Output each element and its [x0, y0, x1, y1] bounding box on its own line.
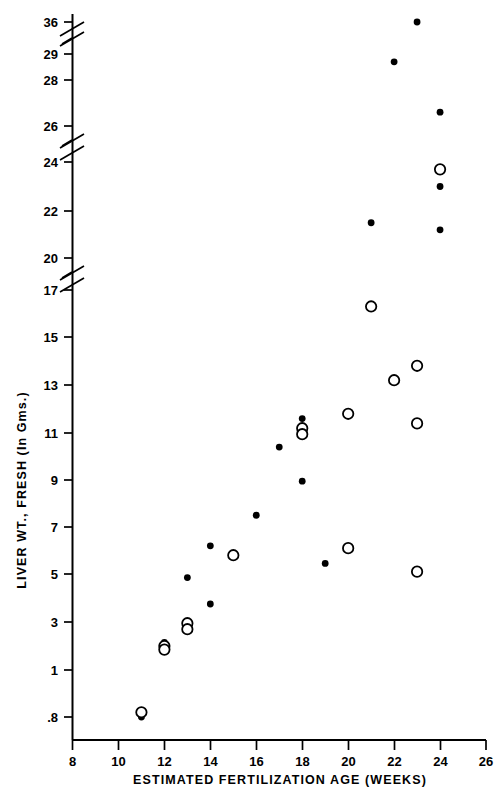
y-tick-label: 3 — [51, 615, 58, 630]
y-tick-label: 20 — [44, 251, 58, 266]
y-axis-title: LIVER WT., FRESH (In Gms.) — [15, 391, 29, 588]
data-points-layer — [136, 19, 445, 721]
data-point-open — [435, 164, 445, 174]
x-tick-label: 10 — [111, 754, 125, 769]
y-tick-label: 22 — [44, 204, 58, 219]
x-tick-label: 26 — [479, 754, 493, 769]
x-tick-label: 14 — [203, 754, 218, 769]
data-point-filled — [437, 109, 444, 116]
data-point-filled — [207, 542, 214, 549]
x-tick-label: 18 — [295, 754, 309, 769]
data-point-open — [389, 375, 399, 385]
data-point-open — [228, 550, 238, 560]
x-axis-title: ESTIMATED FERTILIZATION AGE (WEEKS) — [133, 773, 427, 787]
y-tick-label: 13 — [44, 378, 58, 393]
y-axis-ticks — [64, 22, 72, 717]
data-point-open — [159, 644, 169, 654]
x-tick-label: 8 — [69, 754, 76, 769]
data-point-open — [182, 624, 192, 634]
y-tick-label: 9 — [51, 473, 58, 488]
y-axis-tick-labels: 36 29 28 26 24 22 20 17 15 13 11 9 7 5 3… — [44, 15, 59, 725]
y-tick-label: 28 — [44, 73, 58, 88]
y-tick-label: 15 — [44, 330, 58, 345]
data-point-filled — [391, 58, 398, 65]
x-tick-label: 22 — [387, 754, 401, 769]
data-point-filled — [276, 444, 283, 451]
data-point-open — [343, 409, 353, 419]
data-point-open — [343, 543, 353, 553]
data-point-filled — [437, 226, 444, 233]
x-axis-ticks — [73, 740, 487, 750]
y-tick-label: 11 — [44, 426, 58, 441]
y-tick-label: 17 — [44, 283, 58, 298]
y-tick-label: 36 — [44, 15, 58, 30]
x-tick-label: 24 — [433, 754, 448, 769]
data-point-open — [412, 361, 422, 371]
data-point-filled — [253, 512, 260, 519]
data-point-open — [412, 418, 422, 428]
y-tick-label: 7 — [51, 520, 58, 535]
data-point-filled — [207, 601, 214, 608]
data-point-filled — [299, 478, 306, 485]
y-tick-label: 5 — [51, 567, 58, 582]
y-tick-label: 29 — [44, 47, 58, 62]
data-point-filled — [322, 560, 329, 567]
y-tick-label: 26 — [44, 119, 58, 134]
data-point-open — [412, 566, 422, 576]
y-tick-label: .8 — [47, 710, 58, 725]
data-point-filled — [437, 183, 444, 190]
plot-svg: 36 29 28 26 24 22 20 17 15 13 11 9 7 5 3… — [0, 0, 497, 788]
data-point-open — [136, 707, 146, 717]
x-tick-label: 12 — [157, 754, 171, 769]
y-tick-label: 24 — [44, 155, 59, 170]
x-axis: 8 10 12 14 16 18 20 22 24 26 ESTIMATED F… — [69, 740, 493, 787]
data-point-filled — [184, 574, 191, 581]
x-axis-tick-labels: 8 10 12 14 16 18 20 22 24 26 — [69, 754, 493, 769]
scatter-plot-figure: 36 29 28 26 24 22 20 17 15 13 11 9 7 5 3… — [0, 0, 497, 788]
data-point-filled — [299, 415, 306, 422]
y-axis: 36 29 28 26 24 22 20 17 15 13 11 9 7 5 3… — [15, 14, 84, 740]
data-point-open — [297, 429, 307, 439]
y-tick-label: 1 — [51, 663, 58, 678]
data-point-filled — [368, 219, 375, 226]
data-point-filled — [414, 19, 421, 26]
x-tick-label: 20 — [341, 754, 355, 769]
x-tick-label: 16 — [249, 754, 263, 769]
data-point-open — [366, 301, 376, 311]
